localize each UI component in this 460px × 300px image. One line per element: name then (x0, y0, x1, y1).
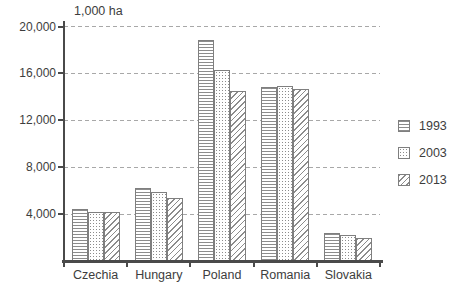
dots-swatch-icon (398, 147, 410, 159)
bar-2003-poland (214, 70, 230, 261)
legend-label: 1993 (419, 119, 447, 133)
bar-chart: 1,000 ha 4,0008,00012,00016,00020,000Cze… (0, 0, 460, 300)
y-axis-tick-label: 20,000 (0, 19, 56, 35)
x-axis-category-label: Hungary (127, 267, 190, 283)
bar-1993-slovakia (324, 233, 340, 261)
y-axis-tick-label: 12,000 (0, 112, 56, 128)
bar-2003-slovakia (340, 235, 356, 261)
x-axis-category-label: Romania (254, 267, 317, 283)
legend-item-2003: 2003 (398, 144, 447, 162)
bar-2003-romania (277, 86, 293, 261)
x-axis-category-label: Poland (190, 267, 253, 283)
legend-item-1993: 1993 (398, 117, 447, 135)
bar-2013-hungary (167, 198, 183, 261)
bar-1993-hungary (135, 188, 151, 261)
legend: 199320032013 (398, 117, 447, 198)
bar-1993-romania (261, 87, 277, 261)
y-axis-tick-label: 4,000 (0, 206, 56, 222)
bar-2013-poland (230, 91, 246, 261)
bar-2013-slovakia (356, 238, 372, 261)
bar-2013-romania (293, 89, 309, 261)
y-axis-tick-label: 8,000 (0, 159, 56, 175)
gridline-20000 (64, 26, 380, 27)
horizontal-lines-swatch-icon (398, 120, 410, 132)
legend-item-2013: 2013 (398, 171, 447, 189)
y-axis-line (63, 21, 65, 262)
bar-2013-czechia (104, 212, 120, 261)
y-axis-unit-label: 1,000 ha (74, 4, 123, 18)
bar-1993-poland (198, 40, 214, 261)
x-axis-category-label: Slovakia (317, 267, 380, 283)
bar-2003-hungary (151, 192, 167, 261)
x-axis-line (62, 260, 383, 263)
legend-label: 2003 (419, 146, 447, 160)
bar-2003-czechia (88, 212, 104, 261)
diagonal-lines-swatch-icon (398, 174, 410, 186)
legend-label: 2013 (419, 173, 447, 187)
y-axis-tick-label: 16,000 (0, 65, 56, 81)
x-axis-category-label: Czechia (64, 267, 127, 283)
bar-1993-czechia (72, 209, 88, 261)
